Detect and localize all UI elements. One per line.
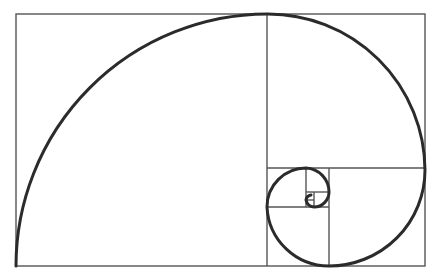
outer-rectangle	[16, 14, 425, 266]
golden-spiral-curve	[16, 14, 425, 266]
golden-spiral-diagram	[0, 0, 439, 279]
